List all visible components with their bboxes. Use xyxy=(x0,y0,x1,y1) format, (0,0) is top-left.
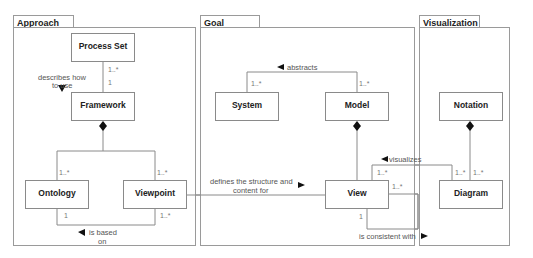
mult-system: 1..* xyxy=(251,80,262,87)
mult-consistent-top: 1..* xyxy=(392,183,403,190)
class-system: System xyxy=(215,92,279,121)
mult-ontology-based: 1 xyxy=(64,212,68,219)
mult-ontology-composition: 1..* xyxy=(59,169,70,176)
class-framework: Framework xyxy=(71,92,135,121)
class-view: View xyxy=(325,180,389,209)
label-defines-structure-1: defines the structure and xyxy=(210,177,293,186)
mult-viewpoint-composition: 1..* xyxy=(157,169,168,176)
mult-framework: 1 xyxy=(108,79,112,86)
mult-viewpoint-based: 1..* xyxy=(160,212,171,219)
label-is-consistent-with: is consistent with xyxy=(359,232,416,241)
class-diagram: Diagram xyxy=(439,180,503,209)
class-notation: Notation xyxy=(439,92,503,121)
mult-consistent-bottom: 1 xyxy=(359,213,363,220)
class-process-set: Process Set xyxy=(71,33,135,62)
label-abstracts: abstracts xyxy=(287,63,317,72)
label-describes-how-to-use-2: to use xyxy=(52,81,72,90)
class-model: Model xyxy=(325,92,389,121)
mult-diagram-notation: 1..* xyxy=(473,169,484,176)
label-defines-structure-2: content for xyxy=(233,186,268,195)
label-is-based-on-1: is based xyxy=(89,228,117,237)
class-viewpoint: Viewpoint xyxy=(123,180,187,209)
mult-model: 1..* xyxy=(359,80,370,87)
mult-process-set: 1..* xyxy=(108,66,119,73)
label-visualizes: visualizes xyxy=(389,155,422,164)
mult-diagram-visualizes: 1..* xyxy=(455,169,466,176)
mult-view-visualizes: 1..* xyxy=(377,169,388,176)
label-is-based-on-2: on xyxy=(98,237,106,246)
class-ontology: Ontology xyxy=(25,180,89,209)
